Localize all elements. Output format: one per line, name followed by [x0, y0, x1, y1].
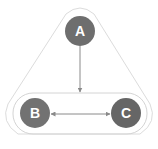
node-a[interactable]: A — [65, 16, 95, 46]
node-c[interactable]: C — [111, 98, 141, 128]
diagram-canvas: A B C — [0, 0, 158, 149]
node-b-label: B — [30, 105, 40, 121]
node-b[interactable]: B — [20, 98, 50, 128]
node-c-label: C — [121, 105, 131, 121]
node-a-label: A — [75, 23, 85, 39]
